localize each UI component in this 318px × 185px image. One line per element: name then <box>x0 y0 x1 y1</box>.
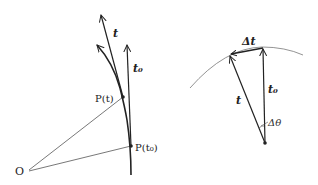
point-p-t0 <box>129 144 133 148</box>
vector-t0-label: t₀ <box>133 62 143 75</box>
point-p-t0-label: P(t₀) <box>135 142 158 153</box>
origin-label: O <box>15 165 24 178</box>
tangent-vector-t <box>101 15 123 97</box>
center-point <box>263 141 267 145</box>
right-panel: Δt t t₀ Δθ <box>190 35 303 145</box>
unit-circle-arc <box>190 47 303 88</box>
vector-t0 <box>263 49 265 143</box>
radius-line-to-p-t <box>29 97 123 170</box>
angle-arc <box>259 126 264 128</box>
point-p-t-label: P(t) <box>95 93 114 104</box>
vector-t-label-right: t <box>236 94 241 107</box>
point-p-t <box>121 95 125 99</box>
delta-t-label: Δt <box>241 35 256 48</box>
diagram-canvas: O P(t) P(t₀) t t₀ Δt t t₀ Δθ <box>0 0 318 185</box>
left-panel: O P(t) P(t₀) t t₀ <box>15 15 158 178</box>
vector-t-label: t <box>113 27 118 40</box>
angle-label: Δθ <box>267 117 281 128</box>
vector-t0-label-right: t₀ <box>268 83 278 96</box>
